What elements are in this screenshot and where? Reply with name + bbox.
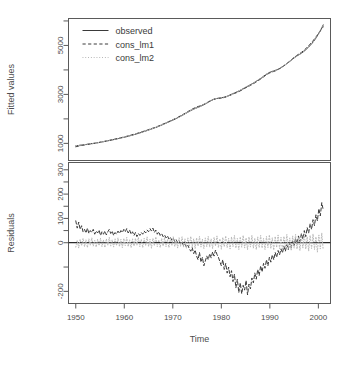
chart-figure: 100030005000 observedcons_lm1cons_lm2 Fi… <box>0 0 346 367</box>
x-tick-label: 1990 <box>261 313 279 322</box>
y-tick-label: 1000 <box>57 134 66 152</box>
x-tick-label: 1960 <box>115 313 133 322</box>
y-tick-label: 3000 <box>57 85 66 103</box>
fitted-values-axis-title: Fitted values <box>6 63 16 115</box>
x-tick-label: 1950 <box>67 313 85 322</box>
y-tick-label: 300 <box>57 163 66 177</box>
legend-label-cons_lm1: cons_lm1 <box>116 40 155 50</box>
two-panel-timeseries-chart: 100030005000 observedcons_lm1cons_lm2 Fi… <box>0 0 346 367</box>
y-tick-label: 0 <box>57 240 66 245</box>
y-tick-label: 200 <box>57 187 66 201</box>
time-axis-title: Time <box>190 334 210 344</box>
x-tick-label: 2000 <box>309 313 327 322</box>
legend-label-observed: observed <box>116 26 153 36</box>
x-tick-label: 1970 <box>164 313 182 322</box>
residuals-axis-title: Residuals <box>6 213 16 253</box>
y-tick-label: -200 <box>57 283 66 300</box>
y-tick-label: 5000 <box>57 36 66 54</box>
y-tick-label: 100 <box>57 211 66 225</box>
legend-label-cons_lm2: cons_lm2 <box>116 53 155 63</box>
x-tick-label: 1980 <box>212 313 230 322</box>
